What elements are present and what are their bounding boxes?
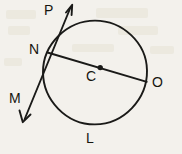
centre-dot-icon [98, 65, 103, 70]
point-label-c: C [86, 69, 96, 83]
point-label-m: M [9, 91, 21, 105]
arrowhead-p-icon [66, 5, 72, 15]
point-label-l: L [86, 131, 94, 145]
point-label-p: P [44, 3, 53, 17]
geometry-figure: P N M C O L [0, 0, 182, 154]
diameter-no [48, 53, 147, 82]
point-label-n: N [29, 42, 39, 56]
point-label-o: O [152, 75, 163, 89]
line-pm-shaft [25, 8, 71, 120]
